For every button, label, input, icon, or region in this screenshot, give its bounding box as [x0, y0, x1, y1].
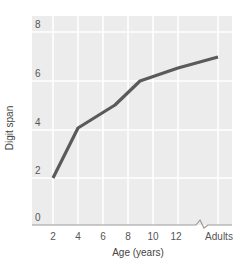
plot-area: [32, 16, 232, 225]
y-tick-2: 2: [35, 165, 41, 176]
x-tick-adults: Adults: [205, 231, 233, 242]
chart: 8 6 4 2 0 2 4 6 8 10 12 Adults Age (year…: [0, 0, 250, 266]
y-tick-4: 4: [35, 117, 41, 128]
y-tick-0: 0: [35, 212, 41, 223]
x-tick-10: 10: [147, 231, 159, 242]
x-tick-6: 6: [100, 231, 106, 242]
x-tick-8: 8: [125, 231, 131, 242]
y-axis-label: Digit span: [4, 106, 15, 150]
x-tick-labels: 2 4 6 8 10 12 Adults: [50, 231, 233, 242]
y-tick-8: 8: [35, 19, 41, 30]
x-tick-4: 4: [75, 231, 81, 242]
y-tick-6: 6: [35, 68, 41, 79]
x-axis-label: Age (years): [112, 247, 164, 258]
x-tick-2: 2: [50, 231, 56, 242]
x-tick-12: 12: [170, 231, 182, 242]
